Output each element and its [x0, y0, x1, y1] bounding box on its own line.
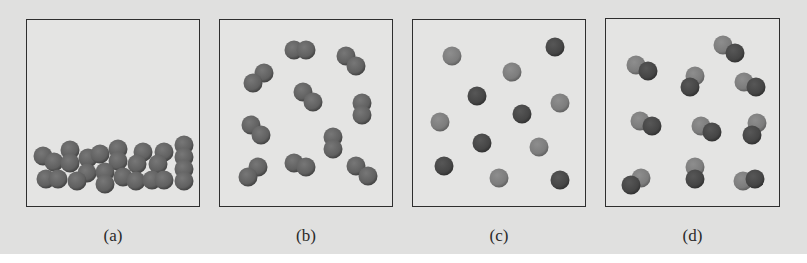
- molecule: [239, 158, 268, 187]
- molecule: [175, 160, 194, 191]
- atom: [155, 171, 174, 190]
- atom: [304, 93, 323, 112]
- atom: [490, 169, 509, 188]
- atom: [91, 145, 110, 164]
- atom: [743, 126, 762, 145]
- atom: [686, 170, 705, 189]
- atom: [639, 62, 658, 81]
- molecule: [734, 170, 765, 191]
- atom: [643, 117, 662, 136]
- atom: [239, 168, 258, 187]
- molecule: [37, 170, 68, 189]
- atom: [747, 78, 766, 97]
- atom: [473, 134, 492, 153]
- panel-label-c: (c): [469, 226, 529, 246]
- molecule: [96, 163, 115, 194]
- atom: [546, 38, 565, 57]
- molecule: [627, 56, 658, 81]
- molecule: [743, 114, 767, 145]
- panel-label-b: (b): [276, 226, 336, 246]
- atom: [530, 138, 549, 157]
- atom: [681, 78, 700, 97]
- atom: [244, 74, 263, 93]
- atom: [435, 157, 454, 176]
- atom: [746, 170, 765, 189]
- molecule: [622, 169, 651, 195]
- molecule: [681, 67, 705, 97]
- molecule: [34, 147, 64, 172]
- molecule: [285, 154, 316, 177]
- atom: [297, 41, 316, 60]
- atom: [49, 170, 68, 189]
- panel-a: [26, 19, 200, 207]
- molecule: [143, 171, 174, 190]
- molecule: [347, 157, 378, 186]
- panel-b: [219, 19, 393, 207]
- atom: [551, 94, 570, 113]
- molecule: [242, 116, 271, 145]
- panel-label-a: (a): [83, 226, 143, 246]
- atom: [551, 171, 570, 190]
- atom: [622, 176, 641, 195]
- atom: [96, 175, 115, 194]
- atom: [431, 113, 450, 132]
- atom: [703, 123, 722, 142]
- panel-c: [412, 19, 586, 207]
- molecule: [149, 143, 174, 174]
- atom: [68, 172, 87, 191]
- atom: [175, 172, 194, 191]
- atom: [503, 63, 522, 82]
- atom: [347, 57, 366, 76]
- atom: [468, 87, 487, 106]
- molecule: [285, 41, 316, 60]
- molecule: [244, 64, 274, 93]
- atom: [443, 47, 462, 66]
- atom: [513, 105, 532, 124]
- molecule: [61, 141, 80, 173]
- molecule: [337, 47, 366, 76]
- molecule: [128, 143, 153, 174]
- atom: [726, 44, 745, 63]
- atom: [359, 167, 378, 186]
- panel-d: [605, 18, 780, 207]
- atom: [353, 106, 372, 125]
- molecule: [324, 128, 343, 159]
- molecule: [686, 158, 705, 189]
- molecule: [692, 117, 722, 142]
- atom: [297, 158, 316, 177]
- molecule: [735, 73, 766, 97]
- atom: [128, 155, 147, 174]
- molecule: [714, 36, 745, 63]
- molecule: [353, 94, 372, 125]
- atom: [252, 126, 271, 145]
- molecule: [631, 112, 662, 136]
- atom: [61, 154, 80, 173]
- molecule: [294, 83, 323, 112]
- atom: [324, 140, 343, 159]
- panel-label-d: (d): [663, 226, 723, 246]
